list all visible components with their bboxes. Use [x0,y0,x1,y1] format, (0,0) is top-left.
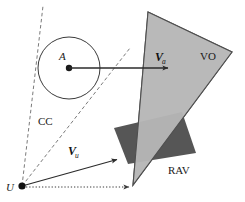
robot-velocity-label: V u [68,144,79,160]
robot-velocity-subscript: u [75,151,79,160]
obstacle-velocity-subscript: a [162,57,166,66]
obstacle-center-label: A [58,50,66,62]
figure-container: A U CC VO RAV V a V u [0,0,245,202]
collision-cone-left-ray [22,6,43,186]
robot-origin-dot [18,182,25,189]
robot-velocity-arrow [22,160,117,187]
collision-cone-label: CC [38,115,53,127]
velocity-obstacle-overlay [133,12,232,185]
velocity-obstacle-label: VO [200,50,216,62]
reachable-avoidance-label: RAV [168,164,190,176]
diagram-canvas: A U CC VO RAV V a V u [0,0,245,202]
robot-origin-label: U [6,181,15,193]
